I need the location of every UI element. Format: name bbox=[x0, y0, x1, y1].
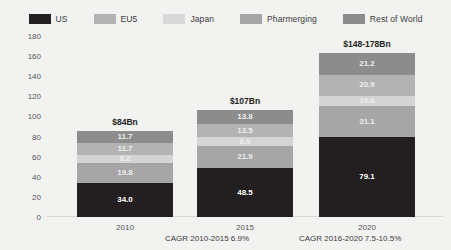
y-tick-label: 180 bbox=[28, 32, 41, 41]
legend-label-eu5: EU5 bbox=[121, 14, 138, 24]
bar-segment-value: 31.1 bbox=[359, 118, 375, 126]
bar-group-2010[interactable]: 34.019.88.211.711.7$84Bn2010 bbox=[77, 131, 173, 217]
legend-swatch-rest-of-world bbox=[343, 14, 365, 24]
legend-label-japan: Japan bbox=[190, 14, 214, 24]
bar-segment-japan[interactable]: 10.6 bbox=[319, 96, 415, 107]
bar-segment-value: 8.9 bbox=[239, 138, 250, 146]
bar-total-label: $107Bn bbox=[197, 96, 293, 106]
y-tick-label: 0 bbox=[37, 213, 41, 222]
bar-segment-us[interactable]: 48.5 bbox=[197, 168, 293, 217]
bar-segment-eu5[interactable]: 11.7 bbox=[77, 143, 173, 155]
legend-swatch-eu5 bbox=[94, 14, 116, 24]
legend-item-eu5[interactable]: EU5 bbox=[94, 14, 138, 24]
y-tick-label: 60 bbox=[32, 152, 41, 161]
bar-segment-value: 13.5 bbox=[237, 127, 253, 135]
y-tick-label: 80 bbox=[32, 132, 41, 141]
bar-segment-value: 21.9 bbox=[237, 153, 253, 161]
x-axis-label-2020: 2020 bbox=[319, 223, 415, 232]
bar-segment-eu5[interactable]: 20.9 bbox=[319, 75, 415, 96]
bar-segment-value: 11.7 bbox=[117, 145, 132, 153]
bar-segment-eu5[interactable]: 13.5 bbox=[197, 124, 293, 138]
bar-segment-rest-of-world[interactable]: 11.7 bbox=[77, 131, 173, 143]
plot-area: 180160140120100806040200 34.019.88.211.7… bbox=[47, 36, 443, 217]
legend-swatch-pharmerging bbox=[240, 14, 262, 24]
bar-segment-value: 34.0 bbox=[117, 196, 133, 204]
bar-segment-pharmerging[interactable]: 31.1 bbox=[319, 106, 415, 137]
bar-segment-value: 21.2 bbox=[359, 60, 375, 68]
legend-swatch-us bbox=[29, 14, 51, 24]
y-tick-label: 40 bbox=[32, 172, 41, 181]
bar-segment-pharmerging[interactable]: 19.8 bbox=[77, 163, 173, 183]
bar-segment-value: 19.8 bbox=[117, 169, 133, 177]
y-axis-title: Global Costs US$Bn bbox=[6, 0, 18, 48]
y-tick-label: 140 bbox=[28, 72, 41, 81]
x-axis-label-2015: 2015 bbox=[197, 223, 293, 232]
legend-item-pharmerging[interactable]: Pharmerging bbox=[240, 14, 317, 24]
legend-swatch-japan bbox=[163, 14, 185, 24]
chart-legend: US EU5 Japan Pharmerging Rest of World bbox=[0, 11, 451, 27]
legend-item-us[interactable]: US bbox=[29, 14, 68, 24]
bar-segment-value: 11.7 bbox=[117, 133, 132, 141]
bar-stack: 34.019.88.211.711.7 bbox=[77, 131, 173, 217]
y-tick-label: 160 bbox=[28, 52, 41, 61]
bar-segment-us[interactable]: 34.0 bbox=[77, 183, 173, 217]
legend-label-pharmerging: Pharmerging bbox=[267, 14, 317, 24]
bar-segment-rest-of-world[interactable]: 21.2 bbox=[319, 53, 415, 74]
bar-group-2020[interactable]: 79.131.110.620.921.2$148-178Bn2020 bbox=[319, 53, 415, 217]
legend-label-rest-of-world: Rest of World bbox=[370, 14, 423, 24]
x-axis-label-2010: 2010 bbox=[77, 223, 173, 232]
bar-group-2015[interactable]: 48.521.98.913.513.8$107Bn2015 bbox=[197, 110, 293, 217]
bar-segment-value: 10.6 bbox=[359, 97, 375, 105]
bar-segment-value: 79.1 bbox=[359, 173, 375, 181]
legend-item-rest-of-world[interactable]: Rest of World bbox=[343, 14, 423, 24]
cagr-annotation-1: CAGR 2010-2015 6.9% bbox=[165, 234, 249, 243]
bar-segment-japan[interactable]: 8.9 bbox=[197, 137, 293, 146]
bar-total-label: $148-178Bn bbox=[319, 39, 415, 49]
bar-segment-value: 20.9 bbox=[359, 81, 375, 89]
bar-segment-us[interactable]: 79.1 bbox=[319, 137, 415, 217]
bar-total-label: $84Bn bbox=[77, 117, 173, 127]
bar-segment-pharmerging[interactable]: 21.9 bbox=[197, 146, 293, 168]
y-tick-label: 120 bbox=[28, 92, 41, 101]
legend-item-japan[interactable]: Japan bbox=[163, 14, 214, 24]
bar-segment-rest-of-world[interactable]: 13.8 bbox=[197, 110, 293, 124]
bar-segment-japan[interactable]: 8.2 bbox=[77, 155, 173, 163]
y-tick-label: 20 bbox=[32, 192, 41, 201]
cagr-annotation-2: CAGR 2016-2020 7.5-10.5% bbox=[299, 234, 401, 243]
bar-segment-value: 13.8 bbox=[237, 113, 253, 121]
bar-stack: 48.521.98.913.513.8 bbox=[197, 110, 293, 217]
bar-segment-value: 48.5 bbox=[237, 189, 253, 197]
y-tick-label: 100 bbox=[28, 112, 41, 121]
bar-segment-value: 8.2 bbox=[119, 155, 130, 163]
legend-label-us: US bbox=[56, 14, 68, 24]
bar-stack: 79.131.110.620.921.2 bbox=[319, 53, 415, 217]
